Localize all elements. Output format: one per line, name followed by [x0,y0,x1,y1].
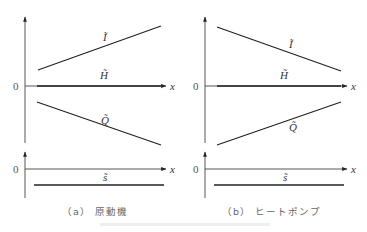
panel-a-q-line [37,102,161,145]
panel-b-caption-text: ヒートポンプ [255,206,321,217]
panel-b-i-line [217,27,341,71]
panel-a: 0 x H̃ Ĩ Q̃ 0 x s̃ [13,17,175,198]
panel-b-s-label: s̃ [283,171,288,183]
panel-b-q-line [217,102,341,145]
panel-a-i-line [38,26,161,70]
panel-a-caption-text: 原動機 [95,206,128,217]
panel-a-i-label: Ĩ [102,31,108,43]
panel-a-lower-x-label: x [169,163,175,175]
panel-b-lower-zero-label: 0 [193,163,199,175]
panel-a-q-label: Q̃ [101,114,109,126]
panel-a-lower-zero-label: 0 [13,163,19,175]
panel-b-h-label: H̃ [279,69,289,81]
panel-a-upper-x-label: x [169,80,175,92]
panel-b: 0 x H̃ Ĩ Q̃ 0 x s̃ [193,17,356,198]
panel-b-upper-zero-label: 0 [193,80,199,92]
panel-a-h-label: H̃ [99,69,109,81]
panel-a-s-label: s̃ [103,171,108,183]
panel-a-caption-label: （a） [62,206,91,217]
panel-b-upper-x-label: x [350,80,356,92]
figure-canvas: 0 x H̃ Ĩ Q̃ 0 x s̃ 0 x H̃ Ĩ Q̃ 0 x [0,0,367,232]
panel-a-upper-zero-label: 0 [13,80,19,92]
panel-b-i-label: Ĩ [288,38,294,50]
figure-caption-faded [100,223,270,226]
panel-a-caption: （a） 原動機 [62,204,128,218]
panel-b-lower-x-label: x [350,163,356,175]
panel-b-caption-label: （b） [222,206,251,217]
panel-b-caption: （b） ヒートポンプ [222,204,321,218]
panel-b-q-label: Q̃ [289,121,297,133]
